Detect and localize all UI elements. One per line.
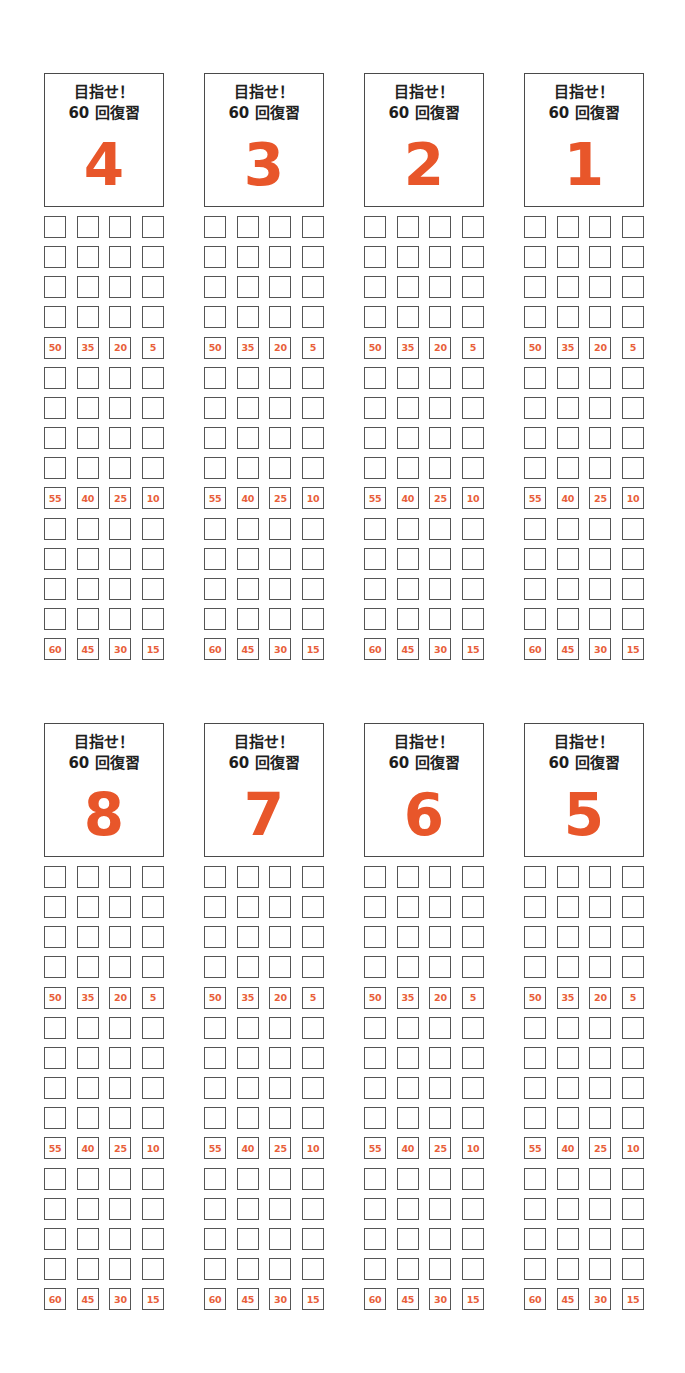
milestone-checkbox[interactable]: 15 <box>302 638 324 660</box>
review-checkbox[interactable] <box>589 457 611 479</box>
review-checkbox[interactable] <box>302 1198 324 1220</box>
review-checkbox[interactable] <box>524 216 546 238</box>
review-checkbox[interactable] <box>44 246 66 268</box>
review-checkbox[interactable] <box>524 926 546 948</box>
review-checkbox[interactable] <box>622 926 644 948</box>
milestone-checkbox[interactable]: 35 <box>77 987 99 1009</box>
review-checkbox[interactable] <box>622 518 644 540</box>
review-checkbox[interactable] <box>269 306 291 328</box>
review-checkbox[interactable] <box>204 306 226 328</box>
review-checkbox[interactable] <box>269 608 291 630</box>
review-checkbox[interactable] <box>269 367 291 389</box>
review-checkbox[interactable] <box>589 866 611 888</box>
review-checkbox[interactable] <box>462 216 484 238</box>
milestone-checkbox[interactable]: 50 <box>204 987 226 1009</box>
review-checkbox[interactable] <box>589 1228 611 1250</box>
review-checkbox[interactable] <box>622 1228 644 1250</box>
review-checkbox[interactable] <box>44 956 66 978</box>
review-checkbox[interactable] <box>557 246 579 268</box>
review-checkbox[interactable] <box>364 306 386 328</box>
milestone-checkbox[interactable]: 40 <box>77 487 99 509</box>
milestone-checkbox[interactable]: 55 <box>44 487 66 509</box>
review-checkbox[interactable] <box>302 1258 324 1280</box>
milestone-checkbox[interactable]: 25 <box>429 487 451 509</box>
review-checkbox[interactable] <box>397 518 419 540</box>
review-checkbox[interactable] <box>237 1107 259 1129</box>
milestone-checkbox[interactable]: 15 <box>462 1288 484 1310</box>
review-checkbox[interactable] <box>524 1107 546 1129</box>
review-checkbox[interactable] <box>142 1258 164 1280</box>
review-checkbox[interactable] <box>237 578 259 600</box>
review-checkbox[interactable] <box>589 896 611 918</box>
milestone-checkbox[interactable]: 25 <box>429 1137 451 1159</box>
review-checkbox[interactable] <box>204 956 226 978</box>
milestone-checkbox[interactable]: 10 <box>462 1137 484 1159</box>
milestone-checkbox[interactable]: 10 <box>142 487 164 509</box>
milestone-checkbox[interactable]: 10 <box>462 487 484 509</box>
review-checkbox[interactable] <box>44 1077 66 1099</box>
review-checkbox[interactable] <box>269 866 291 888</box>
review-checkbox[interactable] <box>524 518 546 540</box>
review-checkbox[interactable] <box>589 1198 611 1220</box>
review-checkbox[interactable] <box>429 1168 451 1190</box>
review-checkbox[interactable] <box>109 1017 131 1039</box>
review-checkbox[interactable] <box>557 578 579 600</box>
review-checkbox[interactable] <box>589 216 611 238</box>
review-checkbox[interactable] <box>204 926 226 948</box>
review-checkbox[interactable] <box>109 1047 131 1069</box>
review-checkbox[interactable] <box>109 518 131 540</box>
review-checkbox[interactable] <box>397 1168 419 1190</box>
review-checkbox[interactable] <box>589 1168 611 1190</box>
review-checkbox[interactable] <box>397 1107 419 1129</box>
milestone-checkbox[interactable]: 20 <box>109 987 131 1009</box>
review-checkbox[interactable] <box>364 457 386 479</box>
review-checkbox[interactable] <box>142 926 164 948</box>
milestone-checkbox[interactable]: 5 <box>142 337 164 359</box>
review-checkbox[interactable] <box>269 457 291 479</box>
review-checkbox[interactable] <box>429 608 451 630</box>
review-checkbox[interactable] <box>302 1047 324 1069</box>
milestone-checkbox[interactable]: 5 <box>462 987 484 1009</box>
review-checkbox[interactable] <box>204 1258 226 1280</box>
review-checkbox[interactable] <box>429 548 451 570</box>
review-checkbox[interactable] <box>142 866 164 888</box>
milestone-checkbox[interactable]: 10 <box>622 487 644 509</box>
review-checkbox[interactable] <box>364 246 386 268</box>
review-checkbox[interactable] <box>589 397 611 419</box>
review-checkbox[interactable] <box>109 548 131 570</box>
review-checkbox[interactable] <box>429 276 451 298</box>
review-checkbox[interactable] <box>44 926 66 948</box>
review-checkbox[interactable] <box>142 608 164 630</box>
milestone-checkbox[interactable]: 15 <box>142 1288 164 1310</box>
review-checkbox[interactable] <box>524 1077 546 1099</box>
milestone-checkbox[interactable]: 25 <box>269 1137 291 1159</box>
review-checkbox[interactable] <box>462 306 484 328</box>
review-checkbox[interactable] <box>77 367 99 389</box>
milestone-checkbox[interactable]: 30 <box>109 1288 131 1310</box>
review-checkbox[interactable] <box>557 1017 579 1039</box>
milestone-checkbox[interactable]: 45 <box>77 1288 99 1310</box>
review-checkbox[interactable] <box>237 306 259 328</box>
review-checkbox[interactable] <box>109 246 131 268</box>
milestone-checkbox[interactable]: 60 <box>44 638 66 660</box>
review-checkbox[interactable] <box>302 926 324 948</box>
review-checkbox[interactable] <box>462 1198 484 1220</box>
review-checkbox[interactable] <box>109 306 131 328</box>
review-checkbox[interactable] <box>44 1107 66 1129</box>
milestone-checkbox[interactable]: 50 <box>44 337 66 359</box>
review-checkbox[interactable] <box>142 1107 164 1129</box>
review-checkbox[interactable] <box>462 866 484 888</box>
review-checkbox[interactable] <box>397 866 419 888</box>
review-checkbox[interactable] <box>364 866 386 888</box>
review-checkbox[interactable] <box>557 1168 579 1190</box>
review-checkbox[interactable] <box>44 1168 66 1190</box>
review-checkbox[interactable] <box>429 1228 451 1250</box>
review-checkbox[interactable] <box>429 427 451 449</box>
review-checkbox[interactable] <box>77 518 99 540</box>
milestone-checkbox[interactable]: 35 <box>237 987 259 1009</box>
review-checkbox[interactable] <box>589 306 611 328</box>
review-checkbox[interactable] <box>397 457 419 479</box>
review-checkbox[interactable] <box>44 578 66 600</box>
review-checkbox[interactable] <box>204 367 226 389</box>
review-checkbox[interactable] <box>622 578 644 600</box>
